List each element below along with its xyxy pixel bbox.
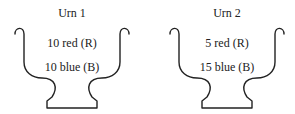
urn-1: Urn 1 10 red (R) 10 blue (B): [2, 0, 142, 114]
urn-1-title: Urn 1: [2, 6, 142, 21]
urn-2-blue-count: 15 blue (B): [157, 60, 295, 75]
urn-1-blue-count: 10 blue (B): [2, 60, 142, 75]
urn-2-title: Urn 2: [157, 6, 295, 21]
urn-2: Urn 2 5 red (R) 15 blue (B): [157, 0, 295, 114]
urn-1-red-count: 10 red (R): [2, 36, 142, 51]
urn-2-red-count: 5 red (R): [157, 36, 295, 51]
